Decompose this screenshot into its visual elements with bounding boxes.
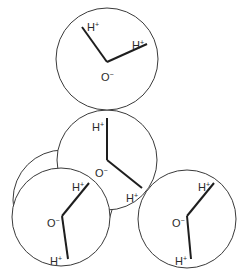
molecule-bottom-right: H+ O− H+ <box>138 170 236 268</box>
molecule-top: H+ H+ O− <box>56 8 158 110</box>
water-molecules-diagram: H+ O− H+ H+ H+ O− H+ O− H+ H+ O− H+ <box>0 0 249 279</box>
hydrogen-label: H+ <box>126 192 138 204</box>
molecule-circle-bottom-left <box>12 168 110 266</box>
molecule-circle-top <box>56 8 158 110</box>
molecule-bottom-left: H+ O− H+ <box>12 168 110 267</box>
